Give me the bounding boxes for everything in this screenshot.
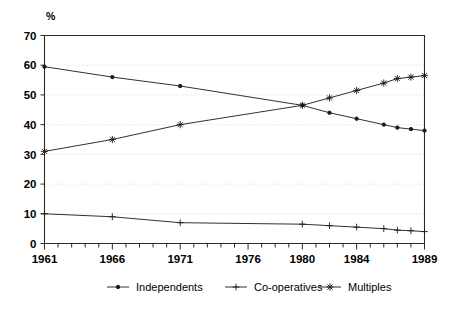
- marker-independents-1986: [382, 123, 385, 126]
- marker-independents-1989: [423, 129, 426, 132]
- x-axis-label-1989: 1989: [412, 253, 438, 265]
- series-line-independents: [45, 67, 425, 131]
- marker-multiples-1980: [299, 102, 306, 109]
- marker-independents-1971: [179, 84, 182, 87]
- marker-co-operatives-1971: [177, 219, 184, 226]
- marker-independents-1961: [43, 65, 46, 68]
- series-multiples: [41, 72, 428, 155]
- marker-co-operatives-1984: [353, 224, 360, 231]
- y-axis-label-10: 10: [24, 208, 37, 220]
- x-axis-label-1966: 1966: [100, 253, 126, 265]
- x-axis-label-1971: 1971: [167, 253, 193, 265]
- y-axis-unit-label: %: [46, 10, 56, 22]
- x-axis-label-1961: 1961: [32, 253, 58, 265]
- chart-canvas: 010203040506070 196119661971197619801984…: [0, 0, 455, 312]
- line-chart: 010203040506070 196119661971197619801984…: [0, 0, 455, 312]
- marker-co-operatives-1966: [109, 213, 116, 220]
- y-axis-label-70: 70: [24, 30, 37, 42]
- plot-frame: [45, 36, 425, 244]
- series-lines: [41, 65, 428, 235]
- legend-marker-independents: [116, 285, 119, 288]
- marker-independents-1982: [328, 111, 331, 114]
- chart-legend: IndependentsCo-operativesMultiples: [107, 281, 392, 293]
- marker-co-operatives-1986: [380, 225, 387, 232]
- marker-multiples-1984: [353, 87, 360, 94]
- marker-multiples-1988: [407, 74, 414, 81]
- y-axis-label-20: 20: [24, 178, 37, 190]
- marker-multiples-1986: [380, 79, 387, 86]
- legend-label-co-operatives: Co-operatives: [254, 281, 323, 293]
- marker-multiples-1966: [109, 136, 116, 143]
- marker-independents-1988: [409, 127, 412, 130]
- x-axis-labels: 1961196619711976198019841989: [32, 253, 438, 265]
- marker-co-operatives-1961: [41, 210, 48, 217]
- legend-item-multiples[interactable]: Multiples: [319, 281, 392, 293]
- x-axis-ticks: [45, 244, 425, 250]
- marker-multiples-1971: [177, 121, 184, 128]
- y-axis-label-0: 0: [30, 238, 36, 250]
- series-line-co-operatives: [45, 214, 425, 232]
- marker-independents-1984: [355, 117, 358, 120]
- series-independents: [43, 65, 426, 132]
- marker-multiples-1961: [41, 148, 48, 155]
- x-axis-label-1980: 1980: [290, 253, 316, 265]
- legend-item-independents[interactable]: Independents: [107, 281, 203, 293]
- legend-marker-multiples: [326, 283, 333, 290]
- marker-co-operatives-1989: [421, 228, 428, 235]
- y-axis-label-50: 50: [24, 89, 37, 101]
- y-axis-labels: 010203040506070: [24, 30, 37, 250]
- marker-multiples-1982: [326, 94, 333, 101]
- marker-independents-1966: [111, 75, 114, 78]
- x-axis-label-1984: 1984: [344, 253, 370, 265]
- axis-frame: [45, 36, 425, 244]
- marker-co-operatives-1982: [326, 222, 333, 229]
- y-axis-label-30: 30: [24, 149, 37, 161]
- legend-label-multiples: Multiples: [348, 281, 392, 293]
- marker-co-operatives-1987: [394, 227, 401, 234]
- y-axis-label-40: 40: [24, 119, 37, 131]
- legend-item-co-operatives[interactable]: Co-operatives: [225, 281, 323, 293]
- legend-label-independents: Independents: [136, 281, 203, 293]
- marker-co-operatives-1980: [299, 221, 306, 228]
- y-axis-label-60: 60: [24, 59, 37, 71]
- series-line-multiples: [45, 76, 425, 152]
- marker-independents-1987: [396, 126, 399, 129]
- marker-multiples-1987: [394, 75, 401, 82]
- marker-co-operatives-1988: [408, 227, 415, 234]
- marker-multiples-1989: [421, 72, 428, 79]
- legend-marker-co-operatives: [233, 284, 240, 291]
- x-axis-label-1976: 1976: [235, 253, 261, 265]
